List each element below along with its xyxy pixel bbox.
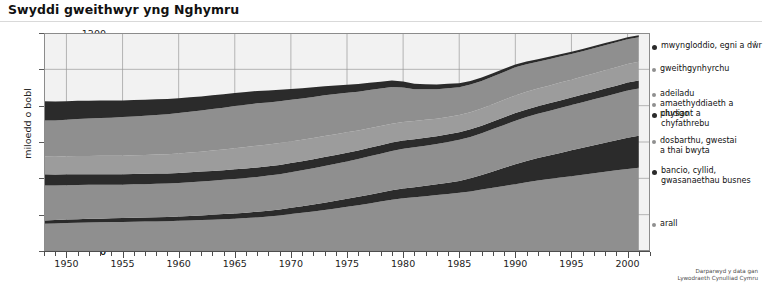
x-axis-tick-mark [89, 252, 90, 256]
x-axis-tick-mark [336, 252, 337, 256]
x-axis-tick-mark [381, 252, 382, 256]
legend-marker-dot-icon [652, 45, 657, 50]
legend-marker-dot-icon [652, 68, 656, 72]
legend-item: adeiladu [652, 89, 764, 99]
x-axis-tick-mark [257, 252, 258, 256]
x-axis-tick-mark [583, 252, 584, 256]
x-axis-tick-mark [650, 252, 651, 256]
stacked-area-chart [44, 33, 650, 251]
x-axis-tick-mark [55, 252, 56, 256]
legend-item-label: mwyngloddio, egni a dŵr [661, 41, 765, 51]
x-axis-tick-mark [527, 252, 528, 256]
x-axis-tick-mark [78, 252, 79, 256]
x-axis-tick-mark [392, 252, 393, 256]
x-axis-tick-label: 1950 [54, 258, 78, 269]
x-axis-tick-mark [369, 252, 370, 256]
x-axis-tick-mark [268, 252, 269, 256]
x-axis-tick-mark [493, 252, 494, 256]
x-axis-tick-mark [224, 252, 225, 256]
x-axis-tick-label: 1975 [335, 258, 359, 269]
plot-area [44, 33, 650, 251]
x-axis-tick-mark [100, 252, 101, 256]
x-axis-tick-mark [358, 252, 359, 256]
x-axis-tick-mark [325, 252, 326, 256]
x-axis-tick-mark [482, 252, 483, 256]
legend-item-label: arall [660, 219, 764, 229]
x-axis-tick-mark [246, 252, 247, 256]
x-axis-tick-mark [212, 252, 213, 256]
x-axis-tick-mark [448, 252, 449, 256]
x-axis-tick-mark [111, 252, 112, 256]
x-axis-tick-mark [616, 252, 617, 256]
legend-item-label: dosbarthu, gwestai a thai bwyta [660, 136, 764, 155]
x-axis-tick-mark [605, 252, 606, 256]
x-axis-tick-mark [504, 252, 505, 256]
legend-marker-dot-icon [652, 113, 657, 118]
x-axis-tick-mark [594, 252, 595, 256]
legend-item: mwyngloddio, egni a dŵr [652, 41, 765, 51]
x-axis-tick-mark [145, 252, 146, 256]
x-axis-tick-label: 1990 [503, 258, 527, 269]
x-axis-tick-label: 1955 [110, 258, 134, 269]
x-axis-tick-mark [560, 252, 561, 256]
x-axis-tick-label: 1960 [167, 258, 191, 269]
x-axis-tick-mark [44, 252, 45, 256]
legend-marker-dot-icon [652, 93, 656, 97]
x-axis-tick-mark [190, 252, 191, 256]
x-axis-tick-label: 1980 [391, 258, 415, 269]
x-axis-tick-mark [538, 252, 539, 256]
x-axis-tick-label: 1970 [279, 258, 303, 269]
x-axis-tick-label: 1985 [447, 258, 471, 269]
legend-item: gweithgynhyrchu [652, 64, 764, 74]
x-axis-tick-mark [313, 252, 314, 256]
header-divider [0, 21, 762, 22]
x-axis-tick-mark [167, 252, 168, 256]
x-axis-tick-mark [426, 252, 427, 256]
legend-item-label: gweithgynhyrchu [660, 64, 764, 74]
legend-item: dosbarthu, gwestai a thai bwyta [652, 136, 764, 155]
legend-item-label: cludiant a chyfathrebu [661, 109, 765, 128]
legend-item-label: bancio, cyllid, gwasanaethau busnes [661, 166, 765, 185]
legend-item: arall [652, 219, 764, 229]
x-axis-tick-mark [280, 252, 281, 256]
legend-item: cludiant a chyfathrebu [652, 109, 765, 128]
x-axis-tick-mark [201, 252, 202, 256]
legend-item-label: adeiladu [660, 89, 764, 99]
x-axis-tick-label: 2000 [615, 258, 639, 269]
data-source-credit: Darparwyd y data gan Lywodraeth Cynullia… [678, 268, 758, 282]
x-axis-tick-mark [549, 252, 550, 256]
x-axis-tick-mark [470, 252, 471, 256]
y-axis-title: miloedd o bobl [22, 49, 33, 199]
x-axis-tick-label: 1965 [223, 258, 247, 269]
x-axis-tick-mark [134, 252, 135, 256]
legend-item: bancio, cyllid, gwasanaethau busnes [652, 166, 765, 185]
legend-marker-dot-icon [652, 103, 656, 107]
x-axis-tick-mark [414, 252, 415, 256]
x-axis-tick-mark [156, 252, 157, 256]
legend-marker-dot-icon [652, 170, 657, 175]
x-axis-tick-mark [639, 252, 640, 256]
x-axis-tick-mark [302, 252, 303, 256]
legend-marker-dot-icon [652, 223, 656, 227]
legend-marker-dot-icon [652, 140, 656, 144]
chart-legend: mwyngloddio, egni a dŵrgweithgynhyrchuad… [652, 33, 762, 248]
page-title: Swyddi gweithwyr yng Nghymru [8, 2, 239, 17]
x-axis-tick-mark [437, 252, 438, 256]
x-axis-tick-label: 1995 [559, 258, 583, 269]
